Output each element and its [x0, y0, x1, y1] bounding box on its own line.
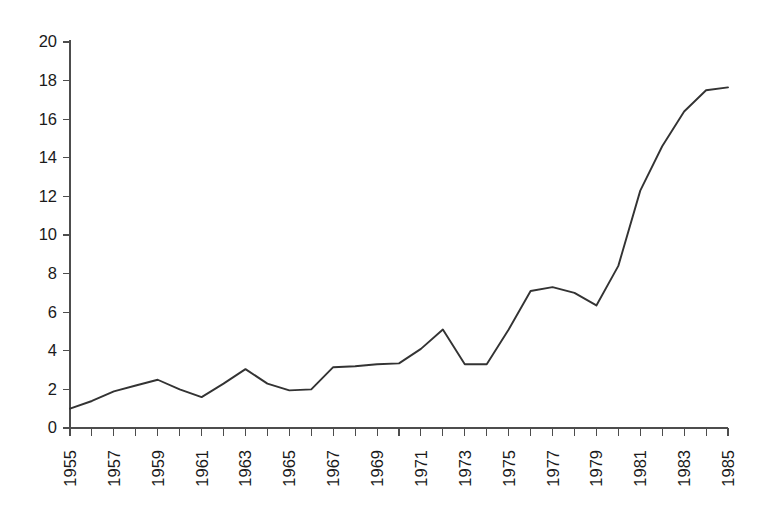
x-tick-label: 1967: [324, 450, 342, 487]
y-tick-label: 16: [39, 110, 57, 128]
x-axis-group: [70, 428, 728, 436]
y-tick-label: 18: [39, 71, 57, 89]
series-group: [70, 87, 728, 408]
y-tick-labels-group: 02468101214161820: [39, 32, 57, 436]
x-tick-label: 1975: [500, 450, 518, 487]
y-tick-label: 8: [48, 264, 57, 282]
x-tick-label: 1969: [368, 450, 386, 487]
x-tick-label: 1957: [105, 450, 123, 487]
x-tick-label: 1985: [719, 450, 737, 487]
x-tick-label: 1961: [193, 450, 211, 487]
x-tick-label: 1955: [61, 450, 79, 487]
chart-canvas: 02468101214161820 1955195719591961196319…: [0, 0, 777, 519]
x-tick-label: 1973: [456, 450, 474, 487]
x-tick-labels-group: 1955195719591961196319651967196919711973…: [61, 450, 737, 487]
y-tick-label: 0: [48, 418, 57, 436]
x-tick-label: 1959: [149, 450, 167, 487]
x-tick-label: 1981: [631, 450, 649, 487]
y-axis-group: [63, 40, 70, 428]
x-tick-label: 1979: [587, 450, 605, 487]
x-tick-label: 1965: [280, 450, 298, 487]
x-tick-label: 1977: [544, 450, 562, 487]
y-tick-label: 2: [48, 380, 57, 398]
x-tick-label: 1971: [412, 450, 430, 487]
y-tick-label: 10: [39, 225, 57, 243]
y-tick-label: 20: [39, 32, 57, 50]
y-tick-label: 6: [48, 303, 57, 321]
line-chart: 02468101214161820 1955195719591961196319…: [0, 0, 777, 519]
y-tick-label: 14: [39, 148, 57, 166]
data-series-line: [70, 87, 728, 408]
x-tick-label: 1983: [675, 450, 693, 487]
y-tick-label: 12: [39, 187, 57, 205]
x-tick-label: 1963: [236, 450, 254, 487]
y-tick-label: 4: [48, 341, 57, 359]
